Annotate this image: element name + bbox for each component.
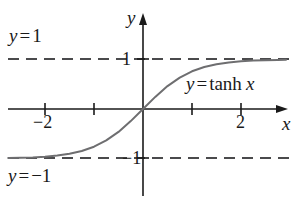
asymptote-top-value: 1 <box>32 25 42 46</box>
y-tick-label-1: 1 <box>122 50 131 68</box>
asymptote-bottom-equals: = <box>16 165 31 186</box>
y-axis-arrowhead <box>139 13 147 25</box>
asymptote-top-label: y=1 <box>9 26 42 45</box>
asymptote-bottom-label: y=−1 <box>8 166 51 185</box>
curve-label-arg: x <box>242 73 254 94</box>
curve-equation-label: y=tanhx <box>186 74 254 93</box>
x-axis-arrowhead <box>276 105 288 113</box>
y-axis-label: y <box>127 8 135 27</box>
asymptote-bottom-value: −1 <box>31 165 51 186</box>
curve-label-equals: = <box>194 73 209 94</box>
y-tick-label-neg1: −1 <box>122 149 141 167</box>
tanh-graph-figure: y x −2 2 1 −1 y=1 y=−1 y=tanhx <box>0 0 295 201</box>
asymptote-top-equals: = <box>17 25 32 46</box>
x-axis-label: x <box>282 114 290 133</box>
curve-label-function: tanh <box>209 73 242 94</box>
x-tick-label-neg2: −2 <box>33 113 52 131</box>
x-tick-label-2: 2 <box>236 113 245 131</box>
